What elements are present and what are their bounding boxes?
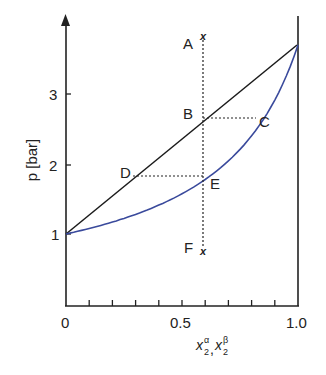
phase-diagram: 3 2 1 0 0.5 1.0 p [bar] x α 2 , x β 2 x …: [0, 0, 326, 375]
point-label-f: F: [184, 239, 193, 256]
x-title-sup-alpha: α: [204, 335, 209, 345]
x-tick-label-0: 0: [61, 314, 69, 331]
x-ticks: [89, 300, 275, 306]
x-axis-title: x α 2 , x β 2: [195, 335, 228, 357]
bubble-line: [66, 45, 297, 234]
point-label-e: E: [210, 175, 220, 192]
x-title-sup-beta: β: [223, 335, 228, 345]
marker-a-cross-icon: x: [199, 30, 207, 42]
x-tick-label-1-0: 1.0: [286, 314, 307, 331]
x-title-var2: x: [214, 337, 223, 353]
y-axis-title: p [bar]: [23, 139, 40, 182]
x-title-sub-1: 2: [204, 347, 209, 357]
x-tick-label-0-5: 0.5: [170, 314, 191, 331]
point-label-d: D: [120, 164, 131, 181]
x-title-sub-2: 2: [223, 347, 228, 357]
point-label-b: B: [183, 105, 193, 122]
y-tick-label-2: 2: [49, 157, 57, 174]
y-tick-label-1: 1: [51, 226, 59, 243]
y-tick-label-3: 3: [49, 86, 57, 103]
x-title-sep: ,: [210, 341, 214, 357]
y-axis-arrow-icon: [61, 14, 70, 26]
x-title-var1: x: [195, 337, 204, 353]
marker-f-cross-icon: x: [199, 245, 207, 257]
point-label-c: C: [259, 113, 270, 130]
point-label-a: A: [183, 35, 193, 52]
